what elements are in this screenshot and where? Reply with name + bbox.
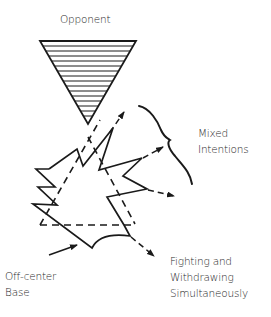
opponent-label: Opponent	[60, 11, 110, 27]
diagram: Opponent Mixed Intentions Fighting and W…	[0, 0, 271, 317]
mixed-intentions-label-line1: Mixed	[198, 125, 228, 141]
off-center-base-label-line1: Off-center	[5, 268, 56, 284]
off-center-base-label-line2: Base	[5, 284, 29, 300]
brace-icon	[139, 106, 192, 184]
jagged-star-shape	[33, 128, 147, 248]
fighting-label-line2: Withdrawing	[170, 269, 234, 285]
opponent-triangle	[30, 41, 150, 124]
fighting-label-line1: Fighting and	[170, 253, 232, 269]
dashed-base-triangle	[40, 120, 135, 225]
fighting-label-line3: Simultaneously	[170, 285, 248, 301]
mixed-intentions-label-line2: Intentions	[198, 141, 249, 157]
